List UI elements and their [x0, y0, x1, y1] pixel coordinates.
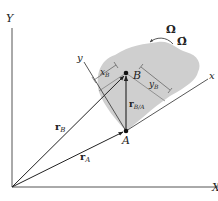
omega-label: Ω	[166, 23, 176, 36]
vector-r-b	[12, 76, 124, 187]
point-a	[124, 129, 129, 134]
local-y-label: y	[76, 52, 83, 63]
omega-dot-label: Ω̇	[177, 35, 187, 48]
point-b-label: B	[132, 69, 141, 82]
point-a-label: A	[121, 134, 130, 147]
global-x-label: X	[211, 181, 218, 194]
vector-r-b-label: rB	[55, 121, 65, 134]
local-x-label: x	[209, 70, 215, 81]
point-b	[124, 71, 129, 76]
vector-r-a	[12, 132, 123, 187]
kinematics-diagram: Y X x y xB yB A B rB rA rB/A Ω Ω̇	[0, 0, 218, 201]
global-y-label: Y	[6, 12, 15, 25]
vector-r-a-label: rA	[80, 151, 90, 164]
